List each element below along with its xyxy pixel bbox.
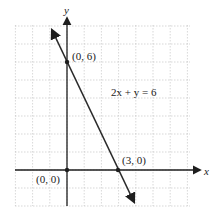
- x-axis-label: x: [203, 165, 209, 177]
- equation-label: 2x + y = 6: [111, 86, 157, 98]
- label-0-6: (0, 6): [72, 50, 96, 63]
- point-0-0: [65, 168, 69, 172]
- graph: y x (0, 6) (3, 0) (0, 0) 2x + y = 6: [0, 0, 220, 217]
- label-3-0: (3, 0): [122, 154, 146, 167]
- label-0-0: (0, 0): [36, 173, 60, 186]
- point-0-6: [65, 60, 69, 64]
- point-3-0: [116, 168, 120, 172]
- y-axis-label: y: [63, 4, 69, 16]
